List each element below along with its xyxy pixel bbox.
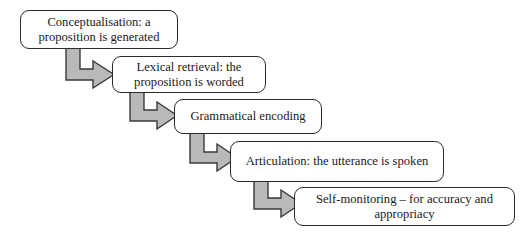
arrow-conceptualisation-to-lexical [66, 46, 114, 88]
node-label: Lexical retrieval: the proposition is wo… [120, 60, 258, 90]
node-articulation[interactable]: Articulation: the utterance is spoken [230, 141, 444, 182]
node-conceptualisation[interactable]: Conceptualisation: a proposition is gene… [20, 10, 178, 49]
node-label: Self-monitoring – for accuracy and appro… [302, 192, 507, 222]
flowchart-diagram: Conceptualisation: a proposition is gene… [0, 0, 532, 242]
node-label: Articulation: the utterance is spoken [238, 154, 436, 169]
node-grammatical-encoding[interactable]: Grammatical encoding [174, 99, 322, 134]
node-lexical-retrieval[interactable]: Lexical retrieval: the proposition is wo… [112, 56, 266, 93]
node-self-monitoring[interactable]: Self-monitoring – for accuracy and appro… [294, 187, 515, 226]
arrow-lexical-to-grammatical [130, 89, 177, 129]
node-label: Grammatical encoding [182, 109, 314, 124]
node-label: Conceptualisation: a proposition is gene… [28, 15, 170, 45]
